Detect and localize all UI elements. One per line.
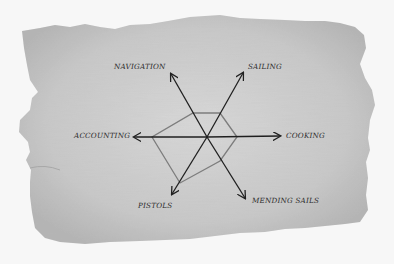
axis-label-mending-sails: MENDING SAILS [252,196,319,205]
chart-stage: NAVIGATION SAILING ACCOUNTING COOKING PI… [0,0,394,264]
parchment-paper [19,15,375,244]
axis-label-accounting: ACCOUNTING [74,131,130,140]
axis-label-navigation: NAVIGATION [114,62,166,71]
axis-label-cooking: COOKING [286,131,325,140]
axis-label-pistols: PISTOLS [138,201,172,210]
radar-chart [0,0,394,264]
axis-label-sailing: SAILING [248,62,282,71]
